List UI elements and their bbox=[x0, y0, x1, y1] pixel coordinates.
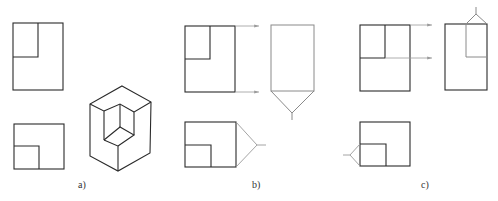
projection-arrows-b bbox=[236, 26, 259, 92]
top-view-b bbox=[185, 122, 236, 167]
panel-label-a: a) bbox=[78, 179, 86, 190]
panel-b bbox=[185, 25, 314, 167]
top-view-c bbox=[360, 122, 410, 166]
panel-label-c: c) bbox=[421, 179, 429, 190]
front-view-a bbox=[13, 23, 63, 90]
front-view-b bbox=[185, 26, 235, 92]
projection-arrows-c bbox=[386, 25, 432, 58]
panel-c bbox=[343, 7, 487, 166]
panel-a bbox=[13, 23, 151, 171]
side-view-b bbox=[271, 25, 314, 120]
view-direction-c bbox=[343, 144, 360, 166]
technical-drawing bbox=[0, 0, 498, 201]
panel-label-b: b) bbox=[252, 179, 260, 190]
isometric-view-a bbox=[90, 86, 151, 171]
side-view-c-inner bbox=[466, 7, 487, 57]
top-view-a bbox=[14, 124, 64, 169]
view-direction-b bbox=[236, 122, 266, 167]
